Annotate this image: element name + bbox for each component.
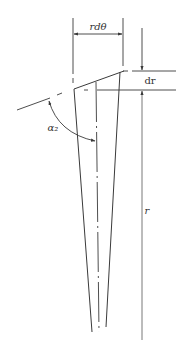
wedge-left-side [74,89,92,332]
wedge-center-line [96,82,99,332]
top-edge-extension-dash [57,93,62,95]
element-top-edge [74,71,124,89]
rdtheta-label: rdθ [89,21,106,32]
wedge-diagram: rdθ dr r α₂ [0,0,194,344]
alpha2-angle-arc [49,101,95,141]
dr-label: dr [144,75,155,86]
alpha2-label: α₂ [48,122,59,133]
top-edge-extension [17,98,50,110]
r-label: r [145,205,151,216]
wedge-right-side [106,72,120,327]
